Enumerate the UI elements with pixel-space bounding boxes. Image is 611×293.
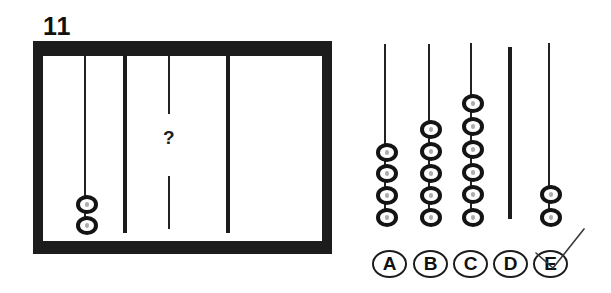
option-e-label: E [544,253,557,275]
bead-icon [420,164,442,183]
bead-icon [420,208,442,227]
bead-icon [462,117,484,136]
bead-icon [76,216,98,235]
bead-icon [462,94,484,113]
option-b-button[interactable]: B [413,250,448,278]
bead-icon [376,164,398,183]
bead-icon [376,143,398,162]
option-a-button[interactable]: A [372,250,407,278]
frame-rod-middle-top [168,56,170,114]
option-d-label: D [504,253,518,275]
option-d-button[interactable]: D [493,250,528,278]
frame-divider-1 [123,56,127,233]
bead-icon [462,140,484,159]
option-d-rod [508,47,512,219]
bead-icon [462,208,484,227]
bead-icon [420,142,442,161]
option-a-label: A [383,253,397,275]
bead-icon [420,186,442,205]
bead-icon [376,208,398,227]
bead-icon [540,208,562,227]
bead-icon [76,195,98,214]
option-c-button[interactable]: C [453,250,488,278]
bead-icon [540,185,562,204]
option-b-label: B [424,253,438,275]
frame-rod-middle-bottom [168,176,170,229]
bead-icon [462,185,484,204]
question-number: 11 [43,12,71,40]
question-mark: ? [163,128,175,148]
option-e-button[interactable]: E [533,250,568,278]
frame-divider-2 [226,56,230,233]
bead-icon [462,163,484,182]
option-c-label: C [464,253,478,275]
bead-icon [420,120,442,139]
bead-icon [376,186,398,205]
